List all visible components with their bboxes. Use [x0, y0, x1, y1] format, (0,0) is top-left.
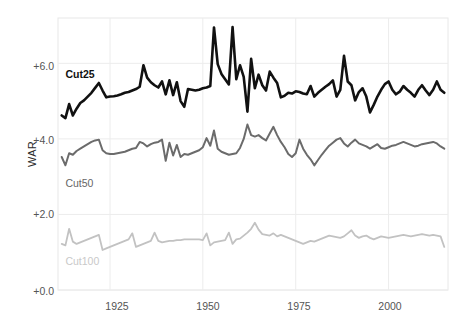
war-line-chart: WAR +6.0 +4.0 +2.0 +0.0 1925 1950 1975 2…: [0, 0, 455, 331]
x-tick-label: 1975: [287, 301, 310, 312]
y-tick-label: +6.0: [8, 61, 54, 72]
x-tick-label: 2000: [378, 301, 401, 312]
x-tick-label: 1950: [196, 301, 219, 312]
y-tick-label: +0.0: [8, 286, 54, 297]
plot-area: [0, 0, 455, 331]
y-axis-ticks: +6.0 +4.0 +2.0 +0.0: [0, 0, 54, 331]
series-label-cut25: Cut25: [65, 68, 94, 80]
y-tick-label: +2.0: [8, 209, 54, 220]
series-label-cut100: Cut100: [65, 255, 99, 267]
x-tick-label: 1925: [105, 301, 128, 312]
y-tick-label: +4.0: [8, 135, 54, 146]
series-label-cut50: Cut50: [65, 177, 93, 189]
